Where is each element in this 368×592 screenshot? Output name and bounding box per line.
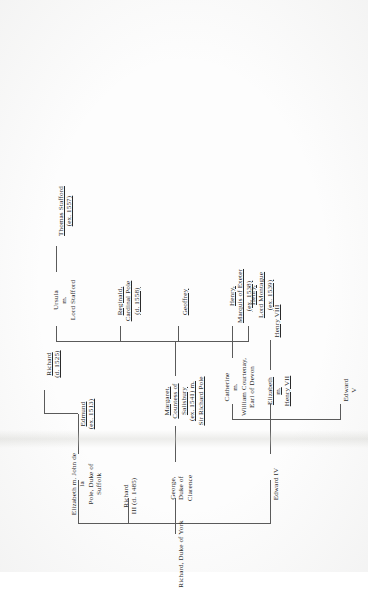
node-catherine-william-courtenay[interactable]: Catherine m. William Courtenay, Earl of …: [214, 352, 257, 422]
node-richard-pole[interactable]: Richard (d. 1525): [36, 338, 62, 390]
node-ursula-lord-stafford[interactable]: Ursula m. Lord Stafford: [43, 272, 77, 328]
connector-to-geoffrey: [178, 326, 179, 342]
node-henry-lord-montague[interactable]: Henry, Lord Montague (ex. 1539): [240, 262, 274, 328]
node-thomas-stafford[interactable]: Thomas Stafford (ex. 1557): [48, 176, 74, 246]
node-geoffrey[interactable]: Geoffrey: [172, 278, 189, 326]
node-richard-iii[interactable]: Richard III (d. 1485): [113, 468, 139, 524]
node-george-duke-of-clarence[interactable]: George, Duke of Clarence: [160, 460, 194, 516]
connector-margaret-children-spine: [56, 341, 248, 342]
node-elizabeth-henry-vii[interactable]: Elizabeth m. Henry VII: [257, 368, 291, 414]
node-richard-duke-of-york[interactable]: Richard, Duke of York: [168, 508, 185, 592]
connector-edmund-to-richard: [44, 390, 45, 414]
node-edmund[interactable]: Edmund (ex. 1513): [70, 386, 96, 442]
connector-edward4-to-children: [270, 420, 271, 454]
connector-ursula-to-stafford: [56, 246, 57, 272]
node-margaret-countess-of-salisbury[interactable]: Margaret, Countess of Salisbury (ex. 154…: [154, 370, 206, 432]
node-edward-iv[interactable]: Edward IV: [263, 454, 280, 514]
node-reginald-cardinal-pole[interactable]: Reginald, Cardinal Pole (d. 1558): [107, 270, 141, 332]
node-elizabeth-john-de-la-pole[interactable]: Elizabeth m. John de la Pole, Duke of Su…: [61, 450, 104, 518]
node-edward-v[interactable]: Edward V: [333, 368, 359, 412]
